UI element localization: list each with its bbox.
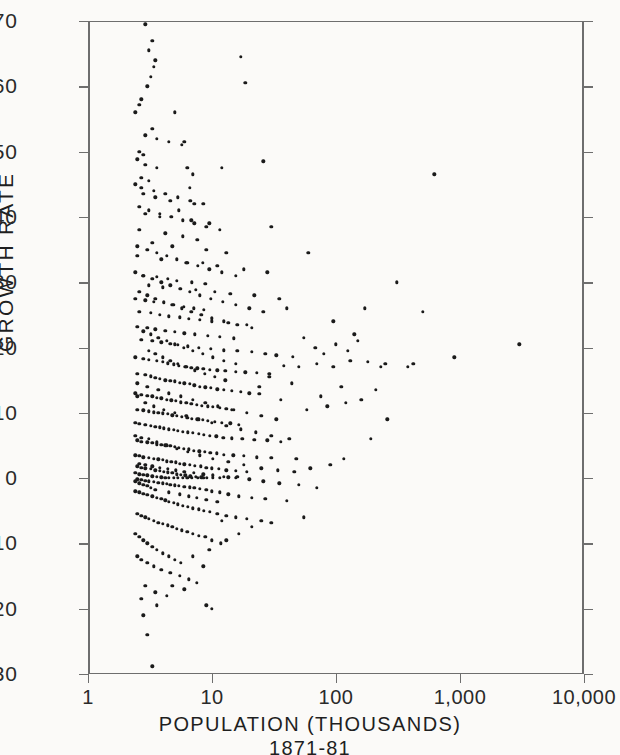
data-point bbox=[167, 427, 170, 430]
data-point bbox=[222, 453, 225, 456]
data-point bbox=[140, 338, 143, 341]
data-point bbox=[160, 497, 163, 500]
data-point bbox=[167, 392, 170, 395]
data-point bbox=[160, 397, 163, 400]
data-point bbox=[151, 664, 154, 667]
data-point bbox=[145, 326, 148, 329]
y-tick-mark-right bbox=[584, 543, 593, 544]
data-point bbox=[166, 361, 169, 364]
data-point bbox=[147, 410, 150, 413]
data-point bbox=[198, 454, 201, 457]
x-tick-label: 1 bbox=[82, 686, 94, 709]
data-point bbox=[138, 205, 141, 208]
data-point bbox=[210, 316, 213, 319]
data-point bbox=[198, 487, 201, 490]
data-point bbox=[210, 320, 213, 323]
data-point bbox=[133, 271, 136, 274]
data-point bbox=[140, 176, 143, 179]
y-tick-mark-right bbox=[584, 348, 593, 349]
data-point bbox=[133, 421, 136, 424]
data-point bbox=[155, 604, 158, 607]
data-point bbox=[149, 333, 152, 336]
data-point bbox=[173, 558, 176, 561]
data-point bbox=[290, 382, 293, 385]
data-point bbox=[152, 519, 155, 522]
data-point bbox=[193, 486, 196, 489]
data-point bbox=[176, 503, 179, 506]
data-point bbox=[218, 228, 221, 231]
data-point bbox=[173, 380, 176, 383]
data-point bbox=[176, 196, 179, 199]
data-point bbox=[195, 403, 198, 406]
data-point bbox=[155, 137, 158, 140]
data-point bbox=[140, 440, 143, 443]
data-point bbox=[145, 542, 148, 545]
data-point bbox=[166, 471, 169, 474]
y-tick-label: 0 bbox=[5, 466, 18, 490]
data-point bbox=[253, 294, 256, 297]
data-point bbox=[201, 352, 204, 355]
data-point bbox=[180, 143, 183, 146]
data-point bbox=[173, 484, 176, 487]
data-point bbox=[234, 274, 237, 277]
data-point bbox=[326, 405, 329, 408]
data-point bbox=[186, 431, 189, 434]
data-point bbox=[342, 457, 345, 460]
data-point bbox=[453, 356, 456, 359]
data-point bbox=[152, 565, 155, 568]
y-tick-mark bbox=[79, 282, 88, 283]
data-point bbox=[406, 365, 409, 368]
y-tick-label: -30 bbox=[0, 662, 18, 686]
data-point bbox=[205, 498, 208, 501]
data-point bbox=[319, 395, 322, 398]
data-point bbox=[136, 372, 139, 375]
data-point bbox=[210, 467, 213, 470]
data-point bbox=[179, 395, 182, 398]
data-point bbox=[175, 527, 178, 530]
data-point bbox=[279, 398, 282, 401]
data-point bbox=[196, 476, 199, 479]
data-point bbox=[154, 488, 157, 491]
data-point bbox=[226, 476, 229, 479]
x-tick-mark bbox=[88, 674, 89, 683]
data-point bbox=[147, 349, 150, 352]
data-point bbox=[166, 277, 169, 280]
data-point bbox=[395, 280, 398, 283]
y-tick-mark-right bbox=[584, 413, 593, 414]
data-point bbox=[142, 357, 145, 360]
data-point bbox=[205, 488, 208, 491]
data-point bbox=[147, 517, 150, 520]
data-point bbox=[344, 401, 347, 404]
y-tick-mark-right bbox=[584, 217, 593, 218]
data-point bbox=[154, 425, 157, 428]
data-point bbox=[176, 476, 179, 479]
data-point bbox=[262, 160, 265, 163]
data-point bbox=[307, 251, 310, 254]
x-axis-title: POPULATION (THOUSANDS) bbox=[0, 713, 620, 736]
y-tick-mark bbox=[79, 21, 88, 22]
data-point bbox=[189, 199, 192, 202]
data-point bbox=[219, 542, 222, 545]
data-point bbox=[142, 614, 145, 617]
data-point bbox=[138, 310, 141, 313]
data-point bbox=[209, 347, 212, 350]
data-point bbox=[147, 284, 150, 287]
data-point bbox=[161, 458, 164, 461]
data-point bbox=[175, 279, 178, 282]
data-point bbox=[193, 369, 196, 372]
data-point bbox=[154, 376, 157, 379]
data-point bbox=[202, 367, 205, 370]
data-point bbox=[208, 548, 211, 551]
data-point bbox=[152, 405, 155, 408]
data-point bbox=[226, 493, 229, 496]
data-point bbox=[202, 308, 205, 311]
data-point bbox=[147, 209, 150, 212]
y-tick-mark bbox=[79, 543, 88, 544]
data-point bbox=[160, 476, 163, 479]
data-point bbox=[171, 471, 174, 474]
data-point bbox=[209, 386, 212, 389]
data-point bbox=[210, 538, 213, 541]
data-point bbox=[266, 439, 269, 442]
data-point bbox=[220, 271, 223, 274]
data-point bbox=[200, 404, 203, 407]
